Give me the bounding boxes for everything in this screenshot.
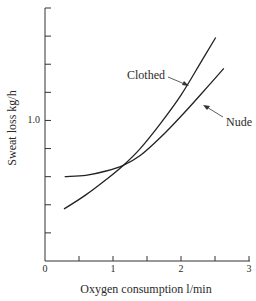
nude-annotation: Nude	[203, 105, 252, 129]
series-lines	[64, 38, 224, 210]
series-line-clothed	[64, 38, 216, 210]
clothed-label: Clothed	[127, 68, 165, 82]
x-tick-label: 2	[179, 263, 184, 274]
y-axis	[45, 8, 51, 261]
y-tick-labels: 1.0	[28, 114, 41, 125]
x-axis	[45, 256, 250, 261]
y-axis-label: Sweat loss kg/h	[5, 90, 19, 165]
y-tick-label: 1.0	[28, 114, 41, 125]
x-tick-label: 0	[43, 263, 48, 274]
x-tick-label: 1	[111, 263, 116, 274]
x-tick-label: 3	[247, 263, 252, 274]
sweat-loss-chart: 0123 1.0 Oxygen consumption l/min Sweat …	[0, 0, 256, 301]
x-tick-labels: 0123	[43, 263, 252, 274]
x-axis-label: Oxygen consumption l/min	[80, 282, 211, 296]
nude-label: Nude	[226, 115, 252, 129]
series-line-nude	[65, 68, 224, 176]
clothed-annotation: Clothed	[127, 68, 189, 86]
nude-arrowhead-icon	[203, 105, 210, 110]
